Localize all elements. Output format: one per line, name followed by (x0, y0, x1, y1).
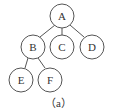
node-f: F (38, 68, 62, 92)
node-d-label: D (88, 41, 96, 53)
edge-b-e (25, 58, 28, 68)
node-c: C (50, 35, 74, 59)
node-d: D (80, 35, 104, 59)
node-b: B (21, 35, 45, 59)
edge-b-f (38, 58, 45, 68)
node-a-label: A (58, 10, 66, 22)
edge-a-d (70, 25, 84, 37)
node-e: E (9, 68, 33, 92)
figure-caption: （a） (0, 94, 117, 110)
edge-a-b (40, 25, 55, 37)
node-b-label: B (29, 41, 36, 53)
node-c-label: C (58, 41, 65, 53)
node-e-label: E (18, 74, 25, 86)
node-f-label: F (47, 74, 53, 86)
node-a: A (50, 4, 74, 28)
